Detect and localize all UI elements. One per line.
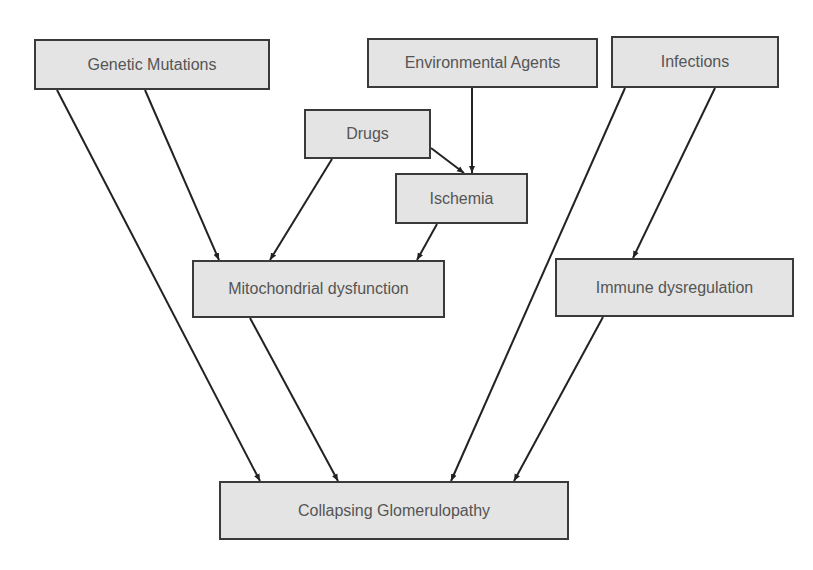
edge-genetic-to-mito <box>145 90 219 260</box>
node-drugs: Drugs <box>304 109 431 159</box>
node-label: Ischemia <box>429 190 493 208</box>
node-label: Infections <box>661 53 729 71</box>
node-environmental-agents: Environmental Agents <box>367 38 598 88</box>
edge-ischemia-to-mito <box>417 224 437 260</box>
node-genetic-mutations: Genetic Mutations <box>34 39 270 90</box>
diagram-canvas: Genetic Mutations Environmental Agents I… <box>0 0 813 570</box>
edge-mito-to-collapsing <box>250 318 338 481</box>
node-immune-dysregulation: Immune dysregulation <box>555 258 794 317</box>
node-infections: Infections <box>611 36 779 88</box>
edge-drugs-to-ischemia <box>431 148 464 173</box>
node-label: Environmental Agents <box>405 54 561 72</box>
node-ischemia: Ischemia <box>395 173 528 224</box>
node-label: Genetic Mutations <box>88 56 217 74</box>
edge-immune-to-collapsing <box>514 317 603 481</box>
edge-drugs-to-mito <box>270 159 332 260</box>
node-mitochondrial-dysfunction: Mitochondrial dysfunction <box>192 260 445 318</box>
node-label: Collapsing Glomerulopathy <box>298 502 490 520</box>
node-label: Immune dysregulation <box>596 279 753 297</box>
node-collapsing-glomerulopathy: Collapsing Glomerulopathy <box>219 481 569 540</box>
edge-infections-to-immune <box>633 88 715 258</box>
node-label: Drugs <box>346 125 389 143</box>
node-label: Mitochondrial dysfunction <box>228 280 409 298</box>
